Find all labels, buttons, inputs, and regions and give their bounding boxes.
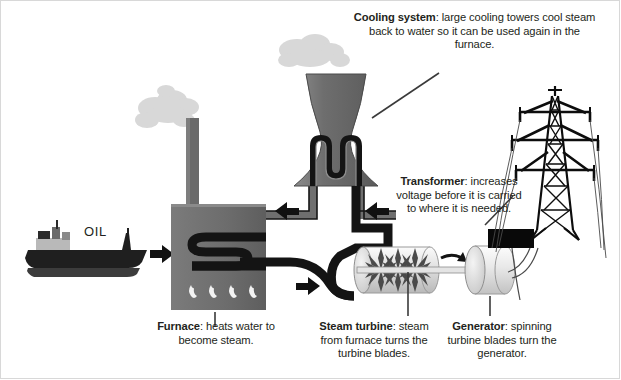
chimney: [186, 118, 199, 204]
cooling-tower: [294, 74, 378, 186]
caption-generator: Generator: spinning turbine blades turn …: [440, 320, 564, 361]
steam-to-turbine-arrow: [296, 277, 320, 295]
generator: [465, 246, 515, 294]
caption-cooling-system: Cooling system: large cooling towers coo…: [351, 11, 598, 52]
caption-steam-turbine-term: Steam turbine: [319, 320, 392, 332]
caption-steam-turbine: Steam turbine: steam from furnace turns …: [310, 320, 438, 361]
cooling-tower-steam: [278, 34, 350, 67]
caption-transformer-term: Transformer: [400, 175, 464, 187]
oil-delivery-arrow: [150, 245, 174, 263]
caption-cooling-system-term: Cooling system: [354, 11, 436, 23]
caption-furnace-term: Furnace: [157, 320, 200, 332]
shaft-rotation-arrow: [441, 252, 467, 262]
caption-transformer: Transformer: increases voltage before it…: [394, 175, 524, 216]
leader-cooling-system: [372, 73, 439, 118]
caption-generator-term: Generator: [452, 320, 505, 332]
diagram-canvas: OIL Cooling system: large cooling towers…: [0, 0, 621, 380]
oil-label: OIL: [84, 224, 107, 239]
caption-furnace: Furnace: heats water to become steam.: [152, 320, 280, 347]
